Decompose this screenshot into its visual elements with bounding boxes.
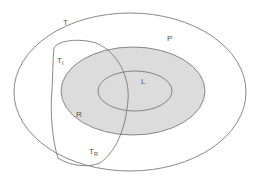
set-diagram: T P L TI R TR xyxy=(0,0,262,184)
label-ti: TI xyxy=(57,56,64,66)
label-tr: TR xyxy=(89,147,98,157)
set-p-ellipse xyxy=(61,47,205,135)
label-r: R xyxy=(76,110,82,119)
label-l: L xyxy=(141,77,146,86)
label-p: P xyxy=(167,34,172,43)
label-t: T xyxy=(63,18,68,27)
